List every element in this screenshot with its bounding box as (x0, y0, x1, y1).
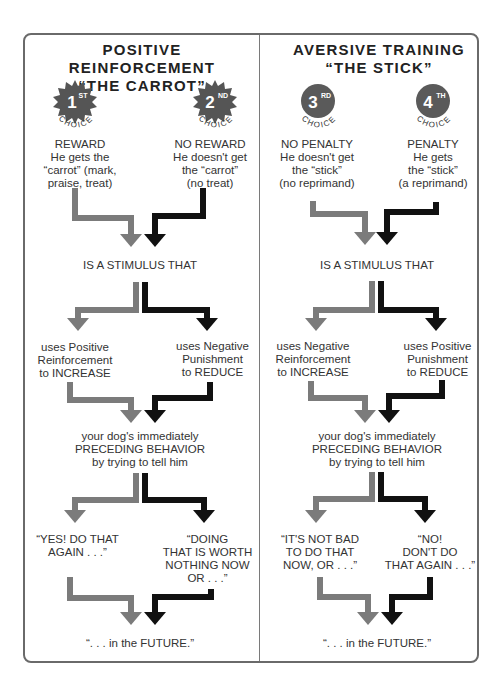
merge-arrow-black-icon (378, 380, 442, 423)
split-arrow-gray-icon (305, 472, 372, 523)
merge-arrow-black-icon (144, 188, 203, 247)
merge-arrow-gray-icon (70, 382, 142, 423)
merge-arrow-black-icon (144, 382, 210, 423)
merge-arrow-black-icon (144, 589, 211, 625)
merge-arrow-black-icon (376, 202, 436, 245)
split-arrow-gray-icon (305, 281, 372, 331)
split-arrow-black-icon (381, 472, 436, 523)
flow-arrows (0, 0, 500, 691)
merge-arrow-gray-icon (320, 577, 379, 625)
split-arrow-black-icon (381, 281, 447, 331)
merge-arrow-gray-icon (75, 188, 142, 247)
split-arrow-gray-icon (67, 282, 136, 331)
split-arrow-black-icon (145, 282, 218, 331)
split-arrow-gray-icon (64, 473, 136, 523)
merge-arrow-gray-icon (313, 201, 376, 245)
split-arrow-black-icon (145, 473, 215, 523)
merge-arrow-gray-icon (311, 381, 376, 423)
merge-arrow-black-icon (381, 577, 430, 625)
merge-arrow-gray-icon (70, 577, 142, 625)
